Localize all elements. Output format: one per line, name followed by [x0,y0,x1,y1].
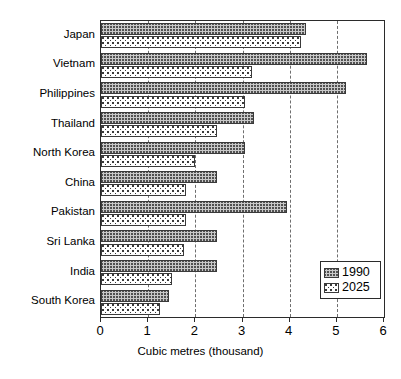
category-label-india: India [0,265,95,277]
bar-2025-vietnam [101,66,252,78]
bar-2025-china [101,184,186,196]
chart-container: JapanVietnamPhilippinesThailandNorth Kor… [0,0,401,379]
category-label-sri-lanka: Sri Lanka [0,235,95,247]
x-tick-label-0: 0 [85,323,115,338]
bar-1990-india [101,260,217,272]
bar-2025-south-korea [101,303,160,315]
bar-1990-philippines [101,82,346,94]
bar-2025-north-korea [101,155,195,167]
bar-group [101,110,384,140]
category-label-japan: Japan [0,28,95,40]
bar-1990-south-korea [101,290,169,302]
legend-item-1990: 1990 [324,265,377,280]
x-tick-label-3: 3 [227,323,257,338]
category-label-pakistan: Pakistan [0,205,95,217]
bar-2025-india [101,273,172,285]
bar-group [101,51,384,81]
x-tick-label-4: 4 [274,323,304,338]
bar-1990-thailand [101,112,254,124]
bar-2025-pakistan [101,214,186,226]
x-tick-2 [194,317,195,322]
bar-group [101,139,384,169]
category-label-north-korea: North Korea [0,146,95,158]
x-tick-label-6: 6 [368,323,398,338]
bar-2025-sri-lanka [101,244,184,256]
x-tick-label-2: 2 [179,323,209,338]
bar-2025-philippines [101,96,245,108]
bar-2025-thailand [101,125,217,137]
x-tick-label-5: 5 [321,323,351,338]
bar-group [101,80,384,110]
category-label-philippines: Philippines [0,87,95,99]
legend-label-2025: 2025 [342,281,370,294]
category-label-thailand: Thailand [0,117,95,129]
x-tick-6 [383,317,384,322]
bar-1990-sri-lanka [101,230,217,242]
legend-label-1990: 1990 [342,266,370,279]
x-axis-title: Cubic metres (thousand) [0,345,401,357]
legend-swatch-2025-icon [324,283,339,293]
x-tick-5 [336,317,337,322]
bar-1990-china [101,171,217,183]
bar-1990-pakistan [101,201,287,213]
legend-swatch-1990-icon [324,268,339,278]
bar-group [101,228,384,258]
x-tick-3 [242,317,243,322]
bar-2025-japan [101,36,301,48]
category-label-china: China [0,176,95,188]
x-tick-0 [100,317,101,322]
chart-legend: 1990 2025 [320,261,381,299]
category-label-vietnam: Vietnam [0,57,95,69]
bar-1990-north-korea [101,142,245,154]
bar-group [101,21,384,51]
category-label-south-korea: South Korea [0,294,95,306]
bar-group [101,169,384,199]
legend-item-2025: 2025 [324,280,377,295]
bar-1990-vietnam [101,53,367,65]
bar-1990-japan [101,23,306,35]
x-tick-4 [289,317,290,322]
x-tick-label-1: 1 [132,323,162,338]
x-tick-1 [147,317,148,322]
bar-group [101,199,384,229]
